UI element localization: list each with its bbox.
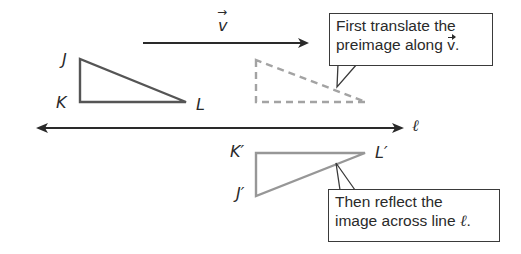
- vector-v-arrow: [143, 38, 309, 48]
- line-l: [36, 123, 404, 133]
- vector-arrow-icon: →: [217, 6, 227, 18]
- callout-reflect-line2: image across line ℓ.: [335, 211, 493, 231]
- callout-1-tail: [337, 64, 357, 87]
- vertex-label-l: L: [196, 97, 205, 113]
- vertex-label-k: K: [56, 95, 67, 111]
- callout-translate: First translate the preimage along v.: [329, 13, 493, 66]
- vertex-label-j-prime: J′: [236, 186, 244, 202]
- vector-v-label: → v: [218, 18, 227, 34]
- line-l-label: ℓ: [412, 118, 419, 134]
- vertex-label-l-prime: L′: [375, 145, 388, 161]
- callout-reflect-line1: Then reflect the: [335, 192, 493, 211]
- glide-reflection-diagram: → v J K L ℓ K′ L′ J′ First translate the…: [0, 0, 521, 254]
- callout-reflect: Then reflect the image across line ℓ.: [328, 189, 500, 242]
- callout-translate-line2: preimage along v.: [336, 35, 486, 54]
- vertex-label-k-prime: K′: [230, 144, 244, 160]
- callout-2-tail: [336, 163, 355, 190]
- preimage-triangle-jkl: [80, 59, 186, 102]
- vertex-label-j: J: [62, 52, 67, 68]
- callout-translate-line1: First translate the: [336, 16, 486, 35]
- vector-v-inline: v: [447, 35, 455, 54]
